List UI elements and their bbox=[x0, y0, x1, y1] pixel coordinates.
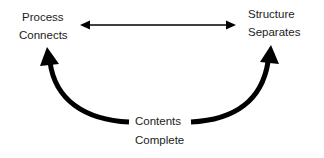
node-contents-title: Contents bbox=[135, 115, 181, 127]
curved-arrow-left-path bbox=[50, 62, 129, 122]
node-structure-title: Structure bbox=[248, 8, 295, 20]
curved-arrow-right-path bbox=[191, 62, 268, 122]
node-contents-subtitle: Complete bbox=[135, 134, 184, 146]
arrowhead-right-icon bbox=[226, 21, 236, 30]
arrowhead-process-icon bbox=[40, 47, 59, 66]
curved-arrow-to-structure bbox=[191, 45, 279, 122]
node-process-title: Process bbox=[22, 11, 64, 23]
node-process-subtitle: Connects bbox=[19, 29, 68, 41]
node-structure-subtitle: Separates bbox=[248, 26, 300, 38]
curved-arrow-to-process bbox=[40, 47, 129, 122]
bidirectional-arrow bbox=[80, 21, 236, 30]
arrowhead-left-icon bbox=[80, 21, 90, 30]
arrowhead-structure-icon bbox=[260, 45, 279, 64]
